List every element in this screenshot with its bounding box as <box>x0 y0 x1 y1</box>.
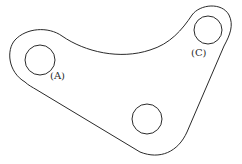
part-diagram: (A) (C) <box>0 0 242 164</box>
hole-c <box>194 16 222 44</box>
hole-b <box>132 104 162 134</box>
plate-outline <box>10 6 232 155</box>
hole-c-label: (C) <box>191 47 207 58</box>
hole-a-label: (A) <box>50 70 65 81</box>
